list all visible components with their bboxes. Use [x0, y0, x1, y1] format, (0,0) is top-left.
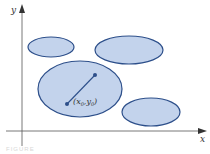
- end-point-icon: [93, 73, 97, 77]
- diagram-canvas: y x (x0,y0): [0, 0, 210, 154]
- ellipse-large-center: [38, 61, 122, 117]
- y-axis-arrow-icon: [19, 4, 25, 13]
- y-axis-label: y: [10, 5, 17, 15]
- ellipse-bottom-right: [122, 98, 180, 126]
- x-axis-label: x: [200, 134, 205, 144]
- start-point-icon: [65, 102, 69, 106]
- ellipse-top-right: [95, 36, 163, 64]
- figure-caption: FIGURE: [6, 146, 35, 152]
- regions: [28, 36, 180, 126]
- ellipse-small-top-left: [28, 37, 74, 57]
- point-label: (x0,y0): [73, 97, 97, 107]
